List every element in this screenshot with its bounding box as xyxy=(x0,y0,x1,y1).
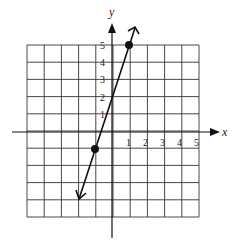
y-tick-1: 1 xyxy=(100,109,105,120)
x-tick-2: 2 xyxy=(143,137,148,148)
x-axis xyxy=(12,128,220,136)
y-axis-label: y xyxy=(108,5,115,19)
coordinate-graph: x y 1 2 3 4 5 1 2 3 4 5 xyxy=(0,0,242,240)
y-tick-2: 2 xyxy=(100,92,105,103)
x-tick-labels: 1 2 3 4 5 xyxy=(126,137,199,148)
point-neg1-neg1 xyxy=(91,145,99,153)
y-tick-4: 4 xyxy=(100,57,105,68)
y-axis xyxy=(108,23,116,238)
x-tick-1: 1 xyxy=(126,137,131,148)
y-tick-5: 5 xyxy=(100,40,105,51)
y-axis-arrow-icon xyxy=(108,23,116,33)
point-1-5 xyxy=(125,41,133,49)
plotted-line xyxy=(76,27,139,199)
y-tick-3: 3 xyxy=(100,74,105,85)
x-axis-label: x xyxy=(221,125,228,139)
x-tick-5: 5 xyxy=(194,137,199,148)
x-tick-4: 4 xyxy=(177,137,182,148)
x-tick-3: 3 xyxy=(160,137,165,148)
x-axis-arrow-icon xyxy=(210,128,220,136)
y-tick-labels: 1 2 3 4 5 xyxy=(100,40,105,120)
grid xyxy=(27,45,199,217)
